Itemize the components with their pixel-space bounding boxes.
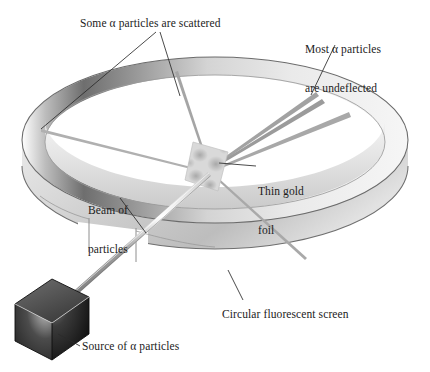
label-undeflected-line1: Most α particles <box>305 43 381 56</box>
label-beam-line2: particles <box>88 243 128 256</box>
label-fluorescent-screen: Circular fluorescent screen <box>222 308 349 321</box>
label-undeflected: Most α particles are undeflected <box>305 17 381 121</box>
label-undeflected-line2: are undeflected <box>305 82 381 95</box>
label-beam-line1: Beam of <box>88 204 128 217</box>
rutherford-experiment-figure: Some α particles are scattered Most α pa… <box>0 0 430 372</box>
label-gold-foil-line1: Thin gold <box>258 185 304 198</box>
label-beam: Beam of particles <box>88 178 128 282</box>
undeflected-ray-1 <box>212 92 319 168</box>
label-gold-foil-line2: foil <box>258 224 304 237</box>
leader-screen <box>228 270 243 300</box>
label-scattered: Some α particles are scattered <box>80 17 221 30</box>
label-source: Source of α particles <box>82 340 179 353</box>
alpha-particle-source[interactable] <box>15 279 89 360</box>
label-gold-foil: Thin gold foil <box>258 159 304 263</box>
